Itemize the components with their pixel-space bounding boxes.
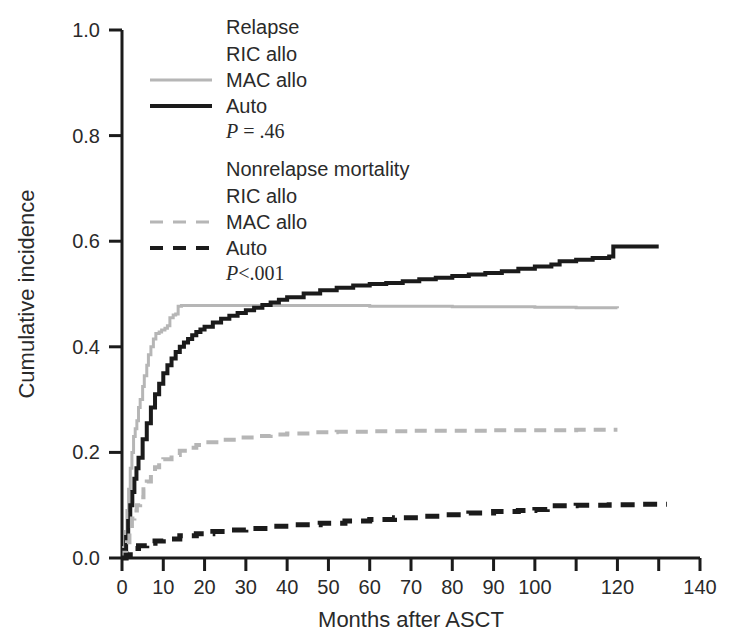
- legend-p-value: P<.001: [225, 262, 285, 284]
- x-tick-label: 120: [601, 576, 634, 598]
- x-tick-label: 10: [152, 576, 174, 598]
- y-tick-label: 0.8: [72, 125, 100, 147]
- x-tick-label: 20: [193, 576, 215, 598]
- legend-entry-label: RIC allo: [226, 185, 297, 207]
- legend-entry-label: MAC allo: [226, 211, 307, 233]
- y-tick-label: 0.0: [72, 547, 100, 569]
- cumulative-incidence-chart: 0.00.20.40.60.81.0 010203040506070809010…: [0, 0, 735, 641]
- y-axis-title: Cumulative incidence: [14, 189, 39, 398]
- y-tick-label: 0.2: [72, 441, 100, 463]
- x-tick-label: 140: [683, 576, 716, 598]
- x-tick-label: 100: [518, 576, 551, 598]
- legend-p-value: P = .46: [225, 120, 285, 142]
- x-tick-label: 80: [441, 576, 463, 598]
- x-tick-label: 30: [235, 576, 257, 598]
- x-tick-label: 0: [116, 576, 127, 598]
- legend-group-title: Relapse: [226, 16, 299, 38]
- x-tick-label: 60: [359, 576, 381, 598]
- x-tick-label: 40: [276, 576, 298, 598]
- chart-canvas: 0.00.20.40.60.81.0 010203040506070809010…: [0, 0, 735, 641]
- legend-entry-label: RIC allo: [226, 43, 297, 65]
- legend-entry-label: MAC allo: [226, 69, 307, 91]
- y-tick-label: 1.0: [72, 19, 100, 41]
- x-tick-label: 70: [400, 576, 422, 598]
- chart-background: [0, 0, 735, 641]
- x-axis-tick-labels: 0102030405060708090100120140: [116, 576, 716, 598]
- x-axis-title: Months after ASCT: [318, 607, 504, 632]
- x-tick-label: 90: [482, 576, 504, 598]
- legend-group-title: Nonrelapse mortality: [226, 158, 409, 180]
- y-tick-label: 0.4: [72, 336, 100, 358]
- legend-entry-label: Auto: [226, 237, 267, 259]
- x-tick-label: 50: [317, 576, 339, 598]
- legend-entry-label: Auto: [226, 95, 267, 117]
- y-tick-label: 0.6: [72, 230, 100, 252]
